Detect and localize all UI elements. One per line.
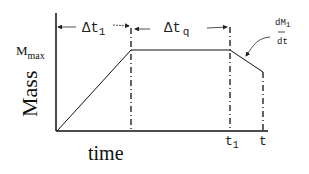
interval1-right-arrow <box>113 25 129 26</box>
mass-time-diagram: Δt1 Δtq Mmax Mass time t1 t dM1 dt <box>0 0 309 174</box>
y-axis-label: Mass <box>17 71 42 117</box>
tick-t: t <box>259 134 267 149</box>
m-max-label: Mmax <box>16 43 45 61</box>
svg-text:dM1: dM1 <box>275 18 291 29</box>
interval2-label: Δtq <box>164 20 189 38</box>
rate-annotation: dM1 dt <box>246 18 291 56</box>
tick-t1: t1 <box>225 134 239 151</box>
x-axis-label: time <box>88 142 124 164</box>
svg-text:dt: dt <box>277 37 288 47</box>
interval2-right-arrow <box>207 27 227 28</box>
mass-curve <box>57 50 263 131</box>
interval1-label: Δt1 <box>82 20 106 38</box>
